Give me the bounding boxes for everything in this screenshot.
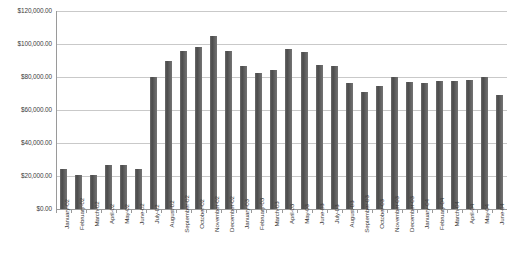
x-label-slot: June-02 [131,213,146,276]
x-axis-tick-label: January-02 [64,199,70,228]
bar-slot [116,11,131,209]
x-label-slot: June-04 [492,213,507,276]
x-label-slot: December-02 [221,213,236,276]
bar-slot [206,11,221,209]
bar [120,165,127,209]
y-axis-tick-label: $20,000.00 [0,173,52,179]
bar-slot [342,11,357,209]
bar [195,47,202,209]
y-axis-tick-label: $120,000.00 [0,8,52,14]
bar-slot [281,11,296,209]
bar-slot [492,11,507,209]
bar-slot [357,11,372,209]
x-axis-tick-label: April-02 [109,204,115,224]
x-axis-tick-label: April-03 [289,204,295,224]
bar [481,77,488,209]
bar [316,65,323,209]
bar [376,86,383,209]
x-label-slot: February-04 [432,213,447,276]
bar-slot [101,11,116,209]
x-axis-tick-label: June-04 [499,203,505,224]
x-axis-tick-label: January-03 [244,199,250,228]
x-axis-tick-label: December-03 [409,196,415,232]
x-label-slot: October-03 [372,213,387,276]
bar [436,81,443,209]
x-label-slot: September-02 [176,213,191,276]
x-label-slot: February-02 [71,213,86,276]
bar-slot [372,11,387,209]
bar [225,51,232,209]
bar-slot [146,11,161,209]
bar-slot [447,11,462,209]
x-axis-tick-label: July-02 [154,205,160,224]
x-axis-tick-label: November-02 [214,196,220,232]
bar [165,61,172,209]
bar-slot [131,11,146,209]
x-label-slot: April-02 [101,213,116,276]
bar-slot [477,11,492,209]
x-axis-labels: January-02February-02March-02April-02May… [56,213,507,276]
x-axis-tick-label: May-02 [124,204,130,224]
x-axis-tick-label: October-03 [379,199,385,228]
x-label-slot: June-03 [312,213,327,276]
x-axis-tick-label: September-02 [184,195,190,232]
y-axis-tick-label: $80,000.00 [0,74,52,80]
x-axis-tick-label: December-02 [229,196,235,232]
bar [150,77,157,209]
bar [285,49,292,209]
bar-chart: $0.00$20,000.00$40,000.00$60,000.00$80,0… [0,0,507,276]
y-axis-tick-label: $100,000.00 [0,41,52,47]
bar [240,66,247,209]
bar-slot [191,11,206,209]
x-label-slot: October-02 [191,213,206,276]
bar-slot [56,11,71,209]
x-label-slot: February-03 [251,213,266,276]
y-axis-line [56,11,57,209]
bar [255,73,262,209]
bar-series [56,11,507,209]
x-axis-tick-label: November-03 [394,196,400,232]
x-axis-tick-label: January-04 [424,199,430,228]
bar-slot [86,11,101,209]
bar-slot [312,11,327,209]
x-label-slot: May-03 [297,213,312,276]
x-axis-tick-label: October-02 [199,199,205,228]
bar [346,83,353,209]
bar-slot [236,11,251,209]
bar [391,77,398,209]
x-label-slot: January-04 [417,213,432,276]
x-axis-tick-label: May-03 [304,204,310,224]
x-label-slot: May-04 [477,213,492,276]
x-label-slot: March-02 [86,213,101,276]
bar-slot [297,11,312,209]
bar [270,70,277,209]
bar-slot [432,11,447,209]
bar [301,52,308,209]
bar [180,51,187,209]
bar-slot [462,11,477,209]
x-label-slot: August-03 [342,213,357,276]
bar-slot [402,11,417,209]
x-axis-tick-label: April-04 [469,204,475,224]
x-label-slot: January-02 [56,213,71,276]
x-label-slot: September-03 [357,213,372,276]
bar-slot [221,11,236,209]
x-label-slot: March-03 [266,213,281,276]
x-label-slot: August-02 [161,213,176,276]
y-axis-tick-label: $0.00 [0,206,52,212]
bar-slot [327,11,342,209]
bar-slot [266,11,281,209]
x-axis-tick-label: June-02 [139,203,145,224]
bar-slot [161,11,176,209]
x-axis-tick-label: February-03 [259,198,265,230]
y-axis-tick-label: $60,000.00 [0,107,52,113]
x-axis-tick-label: March-03 [274,202,280,227]
bar [210,36,217,209]
bar [466,80,473,209]
bar [451,81,458,209]
x-label-slot: November-03 [387,213,402,276]
x-label-slot: July-02 [146,213,161,276]
x-axis-tick-label: September-03 [364,195,370,232]
y-axis-tick-label: $40,000.00 [0,140,52,146]
x-axis-tick-label: August-03 [349,201,355,228]
